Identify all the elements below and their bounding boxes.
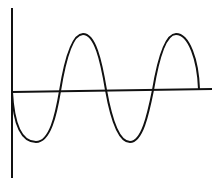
sine-wave-diagram [0,0,219,184]
